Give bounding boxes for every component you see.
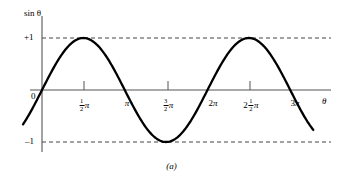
origin-label-zero: 0 bbox=[31, 92, 36, 101]
y-tick-label-minus-one-text: –1 bbox=[25, 136, 34, 146]
figure-caption-text: (a) bbox=[166, 161, 177, 171]
x-axis-title: θ bbox=[322, 97, 326, 106]
fraction-numerator: 1 bbox=[248, 98, 253, 105]
x-axis-title-text: θ bbox=[322, 96, 326, 106]
fraction-numerator: 1 bbox=[79, 98, 84, 105]
pi-symbol: π bbox=[295, 98, 300, 108]
fraction-denominator: 2 bbox=[79, 105, 84, 113]
x-tick-label-pi: π bbox=[125, 98, 130, 108]
sine-plot-canvas bbox=[0, 0, 343, 183]
origin-label-zero-text: 0 bbox=[31, 91, 36, 101]
y-axis-title: sin θ bbox=[24, 9, 41, 18]
y-tick-label-plus-one-text: +1 bbox=[24, 32, 34, 42]
pi-symbol: π bbox=[125, 98, 130, 108]
pi-symbol: π bbox=[254, 100, 259, 110]
x-tick-label-two-and-half-pi: 2 1 2 π bbox=[243, 98, 258, 113]
figure-caption: (a) bbox=[0, 161, 343, 171]
x-tick-label-two-pi: 2 π bbox=[208, 98, 217, 108]
fraction-numerator: 3 bbox=[163, 98, 168, 105]
y-tick-label-minus-one: –1 bbox=[25, 137, 34, 146]
whole-number: 2 bbox=[243, 100, 248, 110]
fraction-denominator: 2 bbox=[248, 105, 253, 113]
fraction-one-half: 1 2 bbox=[79, 98, 84, 113]
fraction-one-half: 1 2 bbox=[248, 98, 253, 113]
fraction-denominator: 2 bbox=[163, 105, 168, 113]
pi-symbol: π bbox=[213, 98, 218, 108]
y-tick-label-plus-one: +1 bbox=[24, 33, 34, 42]
fraction-three-halves: 3 2 bbox=[163, 98, 168, 113]
x-tick-label-three-pi: 3 π bbox=[290, 98, 299, 108]
pi-symbol: π bbox=[85, 100, 90, 110]
x-tick-label-half-pi: 1 2 π bbox=[79, 98, 90, 113]
x-tick-label-three-halves-pi: 3 2 π bbox=[163, 98, 174, 113]
figure-sine-wave-plot: sin θ θ +1 –1 0 1 2 π π 3 2 π 2 π bbox=[0, 0, 343, 183]
y-axis-title-text: sin θ bbox=[24, 8, 41, 18]
pi-symbol: π bbox=[169, 100, 174, 110]
